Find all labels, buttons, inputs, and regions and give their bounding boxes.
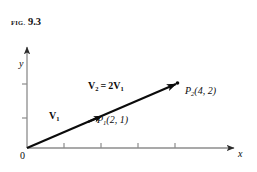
vector-v2-expression-subscript: 1 (120, 85, 123, 92)
figure-container: FIG.9.3 (0, 0, 257, 172)
vector-v2-subscript: 2 (95, 85, 98, 92)
vector-v1-label: V1 (49, 110, 59, 122)
origin-label: 0 (20, 150, 25, 161)
equals-sign: = (100, 80, 106, 91)
point-p2-dot (176, 81, 180, 85)
vector-v2-equation-label: V2=2V1 (88, 80, 124, 92)
point-p2-coords: (4, 2) (194, 85, 216, 96)
x-axis-label: x (238, 148, 242, 159)
x-axis (27, 143, 234, 148)
point-p1-label: P1(2, 1) (97, 114, 128, 126)
vector-v1-subscript: 1 (56, 115, 59, 122)
point-p2-label: P2(4, 2) (185, 85, 216, 97)
y-axis-label: y (19, 58, 23, 69)
vector-diagram-canvas (0, 0, 257, 172)
point-p1-coords: (2, 1) (106, 114, 128, 125)
